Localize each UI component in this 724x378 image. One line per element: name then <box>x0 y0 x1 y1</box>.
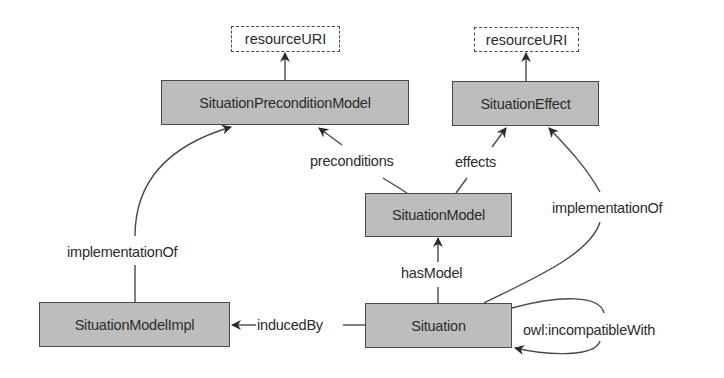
situation-effect-node: SituationEffect <box>452 81 599 126</box>
edge-label-effects: effects <box>455 154 496 170</box>
situation-effect-label: SituationEffect <box>480 96 570 112</box>
resource-uri-right-node: resourceURI <box>474 27 579 52</box>
edge-incompat-out <box>512 299 604 313</box>
edge-label-implementation-of-left: implementationOf <box>67 244 177 260</box>
situation-model-label: SituationModel <box>392 207 485 223</box>
edge-label-has-model: hasModel <box>401 265 462 281</box>
situation-model-impl-node: SituationModelImpl <box>39 302 230 347</box>
situation-model-impl-label: SituationModelImpl <box>75 317 195 333</box>
edge-preconditions-arrow <box>319 128 342 145</box>
edge-incompat-in <box>515 341 600 354</box>
resource-uri-right-label: resourceURI <box>486 32 567 48</box>
resource-uri-left-node: resourceURI <box>231 26 340 52</box>
situation-precondition-model-node: SituationPreconditionModel <box>161 80 409 125</box>
edge-impl-right-upper <box>549 128 600 192</box>
edge-label-preconditions: preconditions <box>310 153 394 169</box>
situation-model-node: SituationModel <box>365 193 512 237</box>
edge-impl-left-curve <box>135 127 231 236</box>
edge-effects-tail <box>456 178 467 193</box>
situation-precondition-model-label: SituationPreconditionModel <box>199 95 370 111</box>
situation-label: Situation <box>411 318 466 334</box>
edge-label-incompatible-with: owl:incompatibleWith <box>523 322 655 338</box>
edge-label-implementation-of-right: implementationOf <box>552 200 662 216</box>
edge-effects-arrow <box>492 128 506 147</box>
resource-uri-left-label: resourceURI <box>245 31 326 47</box>
edge-label-induced-by: inducedBy <box>257 317 323 333</box>
edge-preconditions-tail <box>383 178 407 193</box>
situation-node: Situation <box>365 303 512 348</box>
ontology-diagram: resourceURI resourceURI SituationPrecond… <box>0 0 724 378</box>
